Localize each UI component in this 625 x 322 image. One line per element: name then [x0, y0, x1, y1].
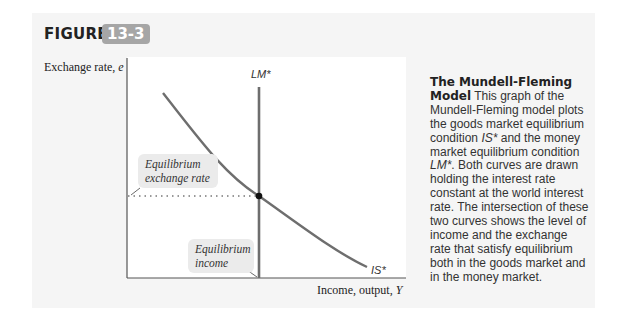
equilibrium-exchange-rate-callout: Equilibrium exchange rate	[138, 154, 218, 188]
figure-caption: The Mundell-FlemingModel This graph of t…	[430, 76, 590, 285]
is-label: IS*	[371, 264, 386, 276]
equilibrium-point	[256, 193, 263, 200]
equilibrium-income-callout: Equilibrium income	[188, 239, 254, 273]
callout-line: Equilibrium	[145, 157, 211, 171]
callout-line: income	[195, 256, 247, 270]
callout-line: exchange rate	[145, 171, 211, 185]
lm-label: LM*	[251, 68, 271, 80]
rate-callout-pointer	[131, 188, 140, 195]
x-axis-label: Income, output, Y	[317, 283, 402, 298]
callout-line: Equilibrium	[195, 242, 247, 256]
